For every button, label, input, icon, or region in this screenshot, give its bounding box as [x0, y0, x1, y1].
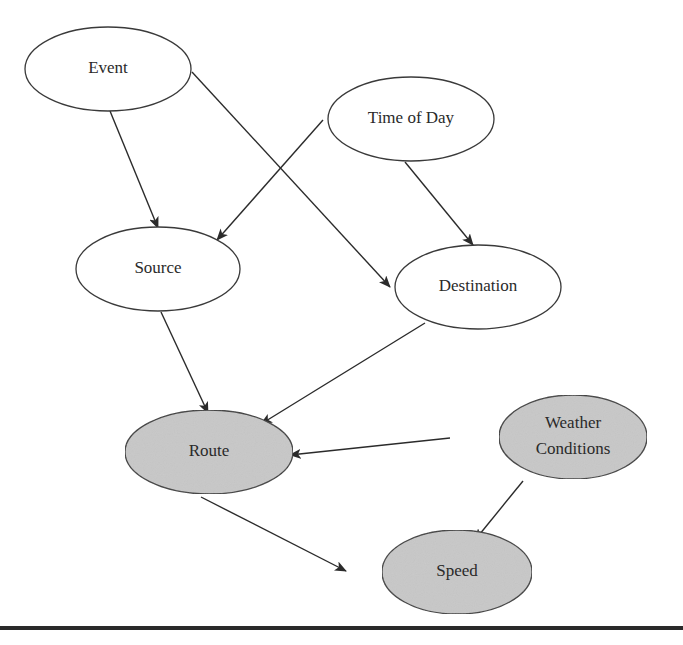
node-label: Weather	[545, 413, 602, 432]
edge-time-of-day-to-destination	[405, 162, 473, 245]
bottom-rule	[0, 626, 683, 630]
node-weather-conditions: WeatherConditions	[499, 395, 647, 479]
node-label: Route	[189, 441, 230, 460]
edge-source-to-route	[161, 312, 208, 413]
node-speed: Speed	[382, 530, 532, 614]
node-label: Destination	[439, 276, 518, 295]
edge-weather-conditions-to-speed	[475, 481, 523, 540]
edge-weather-conditions-to-route	[290, 438, 450, 455]
edge-time-of-day-to-source	[217, 120, 323, 240]
edge-event-to-source	[110, 111, 158, 228]
node-destination: Destination	[395, 245, 561, 329]
node-source: Source	[76, 227, 240, 311]
node-event: Event	[25, 27, 191, 111]
node-label: Speed	[436, 561, 478, 580]
nodes: EventTime of DaySourceDestinationRouteWe…	[25, 27, 647, 614]
edge-route-to-speed	[201, 497, 346, 571]
node-ellipse	[499, 395, 647, 479]
node-time-of-day: Time of Day	[328, 77, 494, 161]
edge-destination-to-route	[261, 323, 425, 424]
node-label: Time of Day	[368, 108, 455, 127]
causal-diagram: EventTime of DaySourceDestinationRouteWe…	[0, 0, 683, 645]
node-label: Event	[88, 58, 128, 77]
node-label: Conditions	[536, 439, 611, 458]
node-label: Source	[134, 258, 181, 277]
node-route: Route	[125, 410, 293, 494]
